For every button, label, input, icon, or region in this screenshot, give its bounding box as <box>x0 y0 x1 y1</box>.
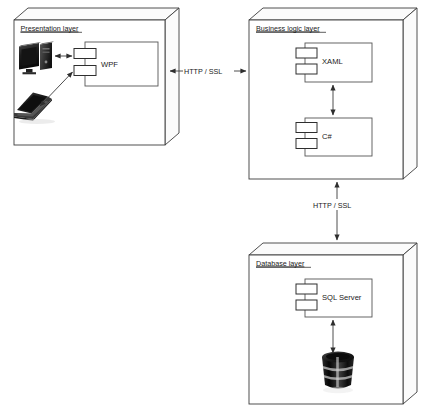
xaml-component-label: XAML <box>322 57 343 66</box>
architecture-diagram: Presentation layer <box>0 0 432 417</box>
connector-business-database: HTTP / SSL <box>312 182 363 240</box>
component-wpf[interactable]: WPF <box>74 42 158 86</box>
component-csharp[interactable]: C# <box>296 118 372 156</box>
xaml-component-tab-lower <box>296 64 317 74</box>
database-node-top-face <box>249 243 417 255</box>
sqlserver-component-label: SQL Server <box>322 293 362 302</box>
business-node-title: Business logic layer <box>256 24 320 33</box>
node-database-layer[interactable]: Database layer SQL Server <box>249 243 417 404</box>
node-business-logic-layer[interactable]: Business logic layer XAML C# <box>249 8 417 179</box>
presentation-node-top-face <box>14 8 179 20</box>
diagram-canvas: Presentation layer <box>0 0 432 417</box>
wpf-component-tab-lower <box>74 66 96 76</box>
business-node-top-face <box>249 8 417 20</box>
node-presentation-layer[interactable]: Presentation layer <box>14 8 179 145</box>
database-node-title: Database layer <box>256 259 305 268</box>
presentation-node-title: Presentation layer <box>21 24 80 33</box>
component-xaml[interactable]: XAML <box>296 43 372 82</box>
sqlserver-component-tab-lower <box>296 300 317 310</box>
connector-business-database-label: HTTP / SSL <box>313 201 351 210</box>
component-sql-server[interactable]: SQL Server <box>296 279 372 317</box>
business-node-side-face <box>403 8 417 179</box>
xaml-component-tab-upper <box>296 48 317 58</box>
wpf-component-label: WPF <box>101 60 118 69</box>
csharp-component-tab-upper <box>296 123 317 133</box>
database-node-side-face <box>403 243 417 404</box>
sqlserver-component-tab-upper <box>296 284 317 294</box>
csharp-component-tab-lower <box>296 139 317 149</box>
connector-presentation-business: HTTP / SSL <box>170 65 246 76</box>
presentation-node-side-face <box>165 8 179 145</box>
csharp-component-label: C# <box>322 132 332 141</box>
wpf-component-tab-upper <box>74 49 96 59</box>
connector-presentation-business-label: HTTP / SSL <box>184 67 222 76</box>
